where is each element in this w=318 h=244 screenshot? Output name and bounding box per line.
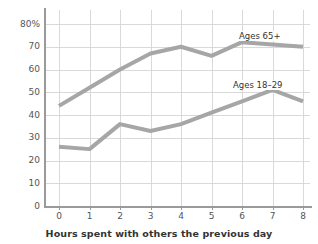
series-line-ages-65-plus [59,42,303,106]
series-label-ages-65-plus: Ages 65+ [238,31,282,41]
series-line-ages-18-29 [59,90,303,149]
line-chart: 01020304050607080% 012345678 Ages 65+ Ag… [0,0,318,244]
series-label-ages-18-29: Ages 18–29 [232,80,283,90]
x-axis-title: Hours spent with others the previous day [0,228,318,239]
